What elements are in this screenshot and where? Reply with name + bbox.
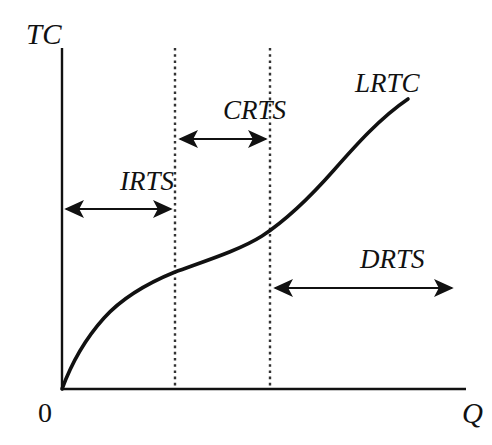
y-axis-label: TC xyxy=(26,18,62,50)
region-label-crts: CRTS xyxy=(223,95,287,125)
x-axis-label: Q xyxy=(462,397,483,429)
origin-label: 0 xyxy=(38,397,52,428)
lrtc-curve-group xyxy=(62,99,408,389)
region-label-drts: DRTS xyxy=(359,244,425,274)
region-label-irts: IRTS xyxy=(119,166,175,196)
lrtc-diagram: TC Q 0 LRTC IRTS CRTS DRTS xyxy=(0,0,492,445)
lrtc-curve xyxy=(62,99,408,389)
lrtc-curve-label: LRTC xyxy=(354,68,421,98)
